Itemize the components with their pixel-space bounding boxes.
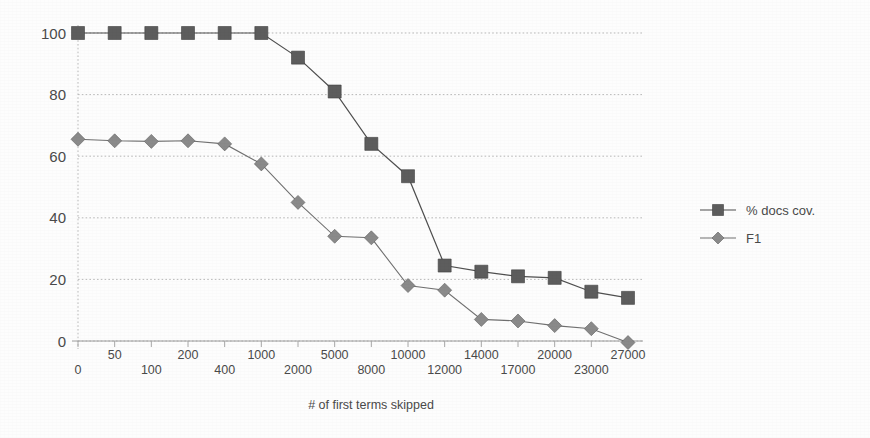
y-tick-label: 20 — [49, 271, 66, 288]
data-point-square[interactable] — [475, 265, 488, 278]
x-tick-label: 8000 — [357, 363, 385, 377]
data-point-diamond[interactable] — [181, 134, 195, 148]
data-point-diamond[interactable] — [364, 231, 378, 245]
data-point-square[interactable] — [548, 271, 561, 284]
x-tick-label: 23000 — [574, 363, 609, 377]
data-point-square[interactable] — [145, 27, 158, 40]
data-point-diamond[interactable] — [144, 134, 158, 148]
data-point-square[interactable] — [292, 51, 305, 64]
data-point-diamond[interactable] — [511, 314, 525, 328]
y-tick-label: 60 — [49, 148, 66, 165]
data-point-square[interactable] — [438, 259, 451, 272]
data-point-square[interactable] — [218, 27, 231, 40]
data-point-diamond[interactable] — [71, 132, 85, 146]
data-point-diamond[interactable] — [218, 137, 232, 151]
data-point-diamond[interactable] — [108, 134, 122, 148]
data-point-square[interactable] — [182, 27, 195, 40]
data-point-square[interactable] — [108, 27, 121, 40]
data-point-diamond[interactable] — [438, 283, 452, 297]
data-point-square[interactable] — [622, 291, 635, 304]
y-tick-label: 0 — [58, 333, 66, 350]
legend-label-1[interactable]: % docs cov. — [746, 203, 815, 218]
data-point-square[interactable] — [402, 170, 415, 183]
data-point-diamond[interactable] — [548, 319, 562, 333]
x-tick-label: 5000 — [321, 348, 349, 362]
x-tick-label: 20000 — [537, 348, 572, 362]
x-tick-label: 12000 — [427, 363, 462, 377]
series-line-1 — [78, 33, 628, 298]
data-point-diamond[interactable] — [474, 312, 488, 326]
y-tick-label: 100 — [41, 25, 66, 42]
legend-marker-square — [713, 205, 724, 216]
x-axis-title: # of first terms skipped — [308, 398, 434, 412]
x-tick-label: 17000 — [501, 363, 536, 377]
chart-figure: 0204060801000501002004001000200050008000… — [0, 0, 870, 438]
line-chart: 0204060801000501002004001000200050008000… — [0, 0, 870, 438]
x-tick-label: 200 — [178, 348, 199, 362]
data-point-square[interactable] — [365, 137, 378, 150]
x-tick-label: 2000 — [284, 363, 312, 377]
series-line-2 — [78, 139, 628, 342]
y-tick-label: 80 — [49, 86, 66, 103]
x-tick-label: 400 — [214, 363, 235, 377]
data-point-square[interactable] — [585, 285, 598, 298]
x-tick-label: 1000 — [247, 348, 275, 362]
y-tick-label: 40 — [49, 209, 66, 226]
x-tick-label: 100 — [141, 363, 162, 377]
data-point-square[interactable] — [328, 85, 341, 98]
data-point-square[interactable] — [72, 27, 85, 40]
data-point-diamond[interactable] — [584, 322, 598, 336]
x-tick-label: 0 — [75, 363, 82, 377]
x-tick-label: 10000 — [391, 348, 426, 362]
legend-label-2[interactable]: F1 — [746, 231, 761, 246]
data-point-square[interactable] — [512, 270, 525, 283]
x-tick-label: 14000 — [464, 348, 499, 362]
x-tick-label: 50 — [108, 348, 122, 362]
data-point-square[interactable] — [255, 27, 268, 40]
x-tick-label: 27000 — [611, 348, 646, 362]
data-point-diamond[interactable] — [401, 279, 415, 293]
legend-marker-diamond — [712, 232, 724, 244]
